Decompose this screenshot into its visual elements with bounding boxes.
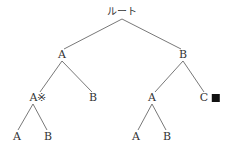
node-l2-c: C <box>200 92 220 104</box>
node-l3-b-right: B <box>163 131 171 143</box>
node-l1-b: B <box>179 49 187 61</box>
black-square-icon <box>212 94 220 102</box>
tree-edges <box>0 0 237 151</box>
node-l3-a-right: A <box>132 131 140 143</box>
node-l2-a: A <box>148 92 156 104</box>
node-l3-a-left: A <box>13 131 21 143</box>
node-l3-b-left: B <box>44 131 52 143</box>
node-l2-b: B <box>89 92 97 104</box>
node-l2-c-label: C <box>200 91 208 104</box>
root-node: ルート <box>107 6 137 18</box>
node-l2-a-starred: A※ <box>30 92 47 104</box>
node-l1-a: A <box>58 49 66 61</box>
